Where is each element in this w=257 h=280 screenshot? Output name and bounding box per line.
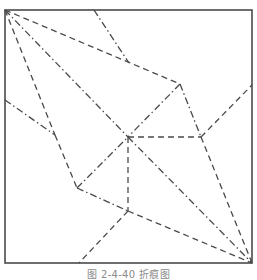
mountain-fold-line xyxy=(5,10,128,137)
valley-fold-line xyxy=(5,10,55,135)
crease-pattern-diagram xyxy=(0,0,257,266)
valley-fold-line xyxy=(201,85,252,137)
valley-fold-line xyxy=(128,211,252,263)
valley-fold-line xyxy=(55,135,77,188)
figure-caption: 图 2-4-40 折痕图 xyxy=(0,266,257,280)
valley-fold-line xyxy=(201,137,252,263)
mountain-fold-line xyxy=(180,84,201,137)
valley-fold-line xyxy=(5,10,180,84)
mountain-fold-line xyxy=(77,137,128,188)
mountain-fold-line xyxy=(77,188,128,211)
valley-fold-line xyxy=(79,211,128,263)
crease-lines xyxy=(5,10,252,263)
mountain-fold-line xyxy=(128,84,180,137)
mountain-fold-line xyxy=(128,137,252,263)
